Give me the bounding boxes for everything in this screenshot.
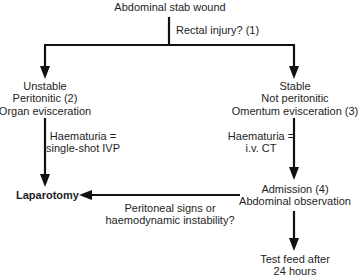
- arrowhead-down-icon: [289, 167, 299, 180]
- node-laparotomy: Laparotomy: [16, 189, 79, 201]
- edge-label-line: Haematuria =: [228, 130, 294, 142]
- node-line: Stable: [232, 80, 358, 92]
- node-line: Not peritonitic: [232, 92, 358, 104]
- node-abdominal-stab-wound: Abdominal stab wound: [114, 1, 225, 13]
- node-line: Organ evisceration: [0, 105, 91, 117]
- node-label: Laparotomy: [16, 189, 79, 201]
- arrowhead-down-icon: [40, 66, 50, 79]
- arrowhead-down-icon: [40, 174, 50, 187]
- edge-label-line: Peritoneal signs or: [105, 202, 234, 214]
- edge-label-line: single-shot IVP: [46, 142, 120, 154]
- edge-label-haematuria-ivp: Haematuria = single-shot IVP: [46, 130, 120, 155]
- edge-label-haematuria-ct: Haematuria = i.v. CT: [228, 130, 294, 155]
- edge-label-line: i.v. CT: [228, 142, 294, 154]
- arrowhead-down-icon: [289, 238, 299, 251]
- node-line: 24 hours: [260, 265, 330, 277]
- node-test-feed: Test feed after 24 hours: [260, 253, 330, 278]
- node-unstable: Unstable Peritonitic (2) Organ eviscerat…: [0, 80, 91, 117]
- edge-label-line: Haematuria =: [46, 130, 120, 142]
- node-stable: Stable Not peritonitic Omentum eviscerat…: [232, 80, 358, 117]
- node-line: Omentum evisceration (3): [232, 105, 358, 117]
- edge-label: Rectal injury? (1): [176, 24, 259, 36]
- node-line: Admission (4): [239, 183, 351, 195]
- node-line: Abdominal observation: [239, 195, 351, 207]
- arrowhead-left-icon: [79, 190, 92, 200]
- arrowhead-down-icon: [289, 66, 299, 79]
- node-label: Abdominal stab wound: [114, 1, 225, 13]
- node-line: Unstable: [0, 80, 91, 92]
- node-admission: Admission (4) Abdominal observation: [239, 183, 351, 208]
- edge-label-line: haemodynamic instability?: [105, 214, 234, 226]
- node-line: Peritonitic (2): [0, 92, 91, 104]
- edge-label-rectal-injury: Rectal injury? (1): [176, 24, 259, 36]
- edge-label-peritoneal-signs: Peritoneal signs or haemodynamic instabi…: [105, 202, 234, 227]
- node-line: Test feed after: [260, 253, 330, 265]
